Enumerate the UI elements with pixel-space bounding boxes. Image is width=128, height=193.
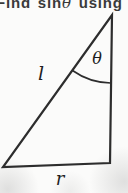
right-triangle-diagram: θ l r (0, 0, 128, 193)
scanned-textbook-crop: Find sinθ using θ l r (0, 0, 128, 193)
side-label-base: r (56, 168, 66, 189)
triangle-outline (3, 15, 112, 167)
angle-label-theta: θ (92, 49, 102, 68)
side-label-hypotenuse: l (38, 62, 44, 84)
angle-arc (73, 71, 111, 84)
